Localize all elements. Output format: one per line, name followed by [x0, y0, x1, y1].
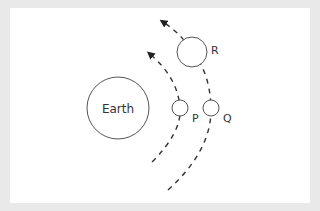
earth-body: Earth: [87, 77, 149, 139]
satellite-r-label: R: [211, 44, 219, 57]
satellite-q: Q: [203, 100, 232, 125]
satellite-p: P: [172, 100, 199, 125]
satellite-r: R: [177, 37, 219, 67]
earth-label: Earth: [102, 102, 134, 116]
satellite-q-label: Q: [223, 112, 232, 125]
orbit-diagram: Earth P Q R: [0, 0, 320, 211]
satellite-p-label: P: [192, 112, 199, 125]
